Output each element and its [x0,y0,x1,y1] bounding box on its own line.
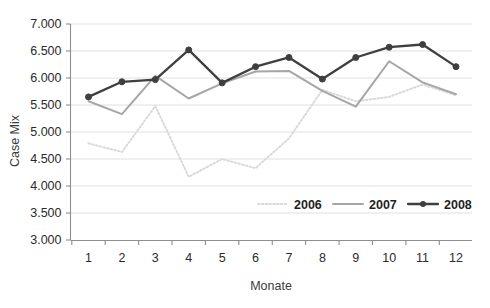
data-point-marker [152,77,158,83]
x-tick-label: 1 [85,251,92,265]
x-tick-label: 3 [152,251,159,265]
data-point-marker [119,79,125,85]
legend-label-2007: 2007 [369,198,397,212]
y-axis-tick-labels: 3.0003.5004.0004.5005.0005.5006.0006.500… [30,17,61,247]
data-point-marker [386,44,392,50]
legend-label-2008: 2008 [444,198,472,212]
x-tick-label: 8 [319,251,326,265]
y-tick-label: 4.000 [30,179,61,193]
data-point-marker [319,76,325,82]
y-tick-label: 6.000 [30,71,61,85]
data-point-marker [186,47,192,53]
y-axis-title: Case Mix [8,114,22,167]
y-tick-label: 7.000 [30,17,61,31]
x-tick-label: 5 [219,251,226,265]
data-point-marker [286,54,292,60]
x-tick-label: 2 [118,251,125,265]
y-tick-label: 5.000 [30,125,61,139]
x-axis-title: Monate [250,279,292,293]
x-tick-label: 12 [449,251,463,265]
data-point-marker [453,64,459,70]
data-point-marker [253,64,259,70]
legend-marker-2008 [420,201,426,207]
x-tick-label: 10 [382,251,396,265]
y-tick-label: 3.500 [30,206,61,220]
y-tick-label: 5.500 [30,98,61,112]
y-tick-label: 6.500 [30,44,61,58]
x-tick-label: 9 [352,251,359,265]
x-tick-label: 4 [185,251,192,265]
y-tick-label: 4.500 [30,152,61,166]
legend-label-2006: 2006 [294,198,322,212]
case-mix-line-chart: 3.0003.5004.0004.5005.0005.5006.0006.500… [0,0,490,308]
data-point-marker [86,94,92,100]
data-point-marker [219,80,225,86]
chart-svg: 3.0003.5004.0004.5005.0005.5006.0006.500… [0,0,490,308]
x-tick-label: 7 [285,251,292,265]
x-tick-label: 6 [252,251,259,265]
y-tick-label: 3.000 [30,233,61,247]
data-point-marker [353,54,359,60]
x-tick-label: 11 [416,251,429,265]
data-point-marker [420,42,426,48]
